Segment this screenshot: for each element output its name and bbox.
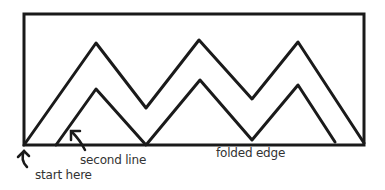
second-line-arrow-icon — [71, 131, 85, 150]
outer-zigzag-line — [24, 40, 364, 145]
paper-rectangle — [24, 14, 364, 145]
start-here-label: start here — [35, 168, 92, 182]
inner-zigzag-line — [56, 80, 335, 145]
start-arrow-icon — [18, 151, 29, 167]
second-line-label: second line — [80, 153, 146, 167]
folding-diagram — [0, 0, 385, 190]
folded-edge-label: folded edge — [216, 146, 285, 160]
